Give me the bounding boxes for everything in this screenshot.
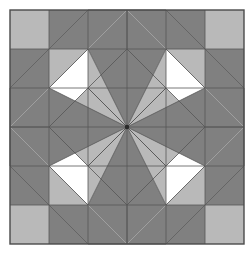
white-notch-layer bbox=[88, 10, 127, 49]
grid-cell bbox=[10, 205, 49, 244]
quilt-block-svg bbox=[0, 0, 251, 254]
center-hub-dot bbox=[125, 125, 129, 129]
quilt-figure: Geometric Quilt Block Pattern light gray… bbox=[0, 0, 251, 254]
grid-cell bbox=[205, 10, 244, 49]
grid-cell bbox=[205, 205, 244, 244]
grid-cell bbox=[10, 10, 49, 49]
